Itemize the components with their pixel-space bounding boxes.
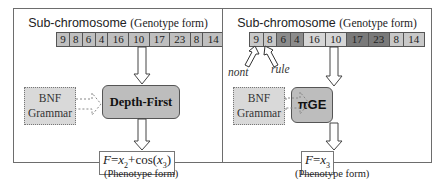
left-phenotype-label: (Phenotype form) [104,168,178,179]
right-phenotype-label: (Phenotype form) [295,168,369,179]
codon: 6 [277,33,291,46]
codon: 16 [108,33,129,46]
right-title-main: Sub-chromosome [237,16,336,30]
codon: 8 [264,33,278,46]
depth-first-process: Depth-First [102,85,180,119]
codon: 17 [150,33,171,46]
formula-F: F [103,152,111,167]
left-chromosome: 9 8 6 4 16 10 17 23 8 14 [56,32,224,47]
left-title-sub: (Genotype form) [130,17,208,29]
left-title: Sub-chromosome (Genotype form) [14,16,222,30]
dotted-right-arrow-icon [76,91,102,117]
codon: 4 [96,33,109,46]
codon: 14 [404,33,424,46]
codon: 17 [347,33,368,46]
formula-close: ) [167,152,171,167]
left-title-main: Sub-chromosome [28,16,127,30]
nont-arrow-icon [243,46,259,68]
formula-F: F [305,152,313,167]
rule-label: rule [271,63,290,75]
right-chromosome: 9 8 6 4 16 10 17 23 8 14 [249,32,425,47]
formula-cos: +cos( [128,152,157,167]
codon: 14 [203,33,223,46]
codon: 10 [326,33,347,46]
depth-first-panel: Sub-chromosome (Genotype form) 9 8 6 4 1… [13,8,223,163]
codon: 9 [57,33,70,46]
bnf-label: BNF [25,91,75,106]
codon: 16 [304,33,325,46]
bnf-grammar-box: BNF Grammar [233,87,285,125]
down-arrow-icon [326,123,342,151]
dotted-right-arrow-icon [284,90,310,116]
down-arrow-icon [134,119,150,151]
codon: 8 [191,33,204,46]
grammar-label: Grammar [25,106,75,121]
right-title-sub: (Genotype form) [339,17,417,29]
codon: 6 [83,33,96,46]
pige-panel: Sub-chromosome (Genotype form) 9 8 6 4 1… [222,8,432,163]
grammar-label: Grammar [234,106,284,121]
codon: 23 [369,33,390,46]
bnf-grammar-box: BNF Grammar [24,87,76,125]
codon: 10 [129,33,150,46]
bnf-label: BNF [234,91,284,106]
codon: 8 [70,33,83,46]
nont-label: nont [228,66,248,78]
codon: 4 [291,33,305,46]
down-arrow-icon [134,47,150,85]
codon: 9 [250,33,264,46]
right-title: Sub-chromosome (Genotype form) [223,16,431,30]
codon: 23 [170,33,191,46]
down-arrow-icon [326,47,342,87]
codon: 8 [390,33,404,46]
